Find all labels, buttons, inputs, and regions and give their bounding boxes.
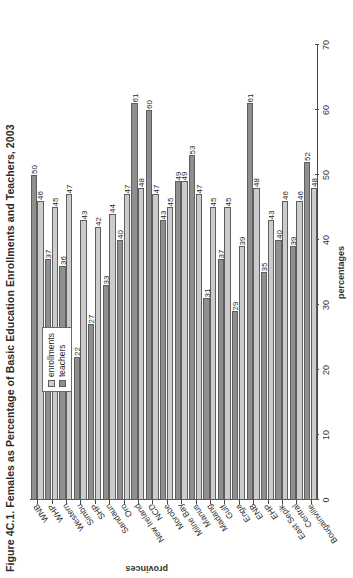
bar-value-label: 47 xyxy=(151,185,160,194)
x-axis-tick-label: 20 xyxy=(321,365,331,375)
bar-group: New Ireland4861 xyxy=(131,45,145,500)
bar-value-label: 35 xyxy=(260,263,269,272)
legend-label: teachers xyxy=(57,344,68,377)
bar-value-label: 45 xyxy=(223,198,232,207)
bar-value-label: 61 xyxy=(130,94,139,103)
bar-enrollments: 39 xyxy=(239,247,245,501)
figure-canvas: Figure 4C.1. Females as Percentage of Ba… xyxy=(0,0,353,578)
bar-enrollments: 48 xyxy=(253,188,259,500)
bar-teachers: 22 xyxy=(74,357,80,500)
bar-value-label: 36 xyxy=(58,256,67,265)
bar-value-label: 47 xyxy=(122,185,131,194)
bar-enrollments: 47 xyxy=(124,195,130,501)
bar-teachers: 31 xyxy=(203,299,209,501)
bar-group: Enga3929 xyxy=(232,45,246,500)
bar-enrollments: 43 xyxy=(80,221,86,501)
bar-value-label: 49 xyxy=(173,172,182,181)
bar-teachers: 27 xyxy=(88,325,94,501)
bar-group: Madang4531 xyxy=(203,45,217,500)
bar-value-label: 33 xyxy=(101,276,110,285)
bar-value-label: 39 xyxy=(288,237,297,246)
y-axis-tick-label-wrap: WNB xyxy=(30,505,40,575)
bar-enrollments: 49 xyxy=(181,182,187,501)
bar-value-label: 43 xyxy=(159,211,168,220)
bar-value-label: 40 xyxy=(274,230,283,239)
bar-value-label: 37 xyxy=(44,250,53,259)
x-axis-tick-label: 60 xyxy=(321,105,331,115)
bar-value-label: 45 xyxy=(50,198,59,207)
bar-value-label: 40 xyxy=(116,230,125,239)
bar-value-label: 48 xyxy=(252,178,261,187)
legend-swatch-icon xyxy=(48,380,55,387)
bar-teachers: 35 xyxy=(261,273,267,501)
bar-value-label: 50 xyxy=(29,165,38,174)
x-axis-tick-label: 10 xyxy=(321,430,331,440)
bar-teachers: 33 xyxy=(103,286,109,501)
bar-teachers: 40 xyxy=(275,240,281,500)
bar-group: Manus4753 xyxy=(189,45,203,500)
bar-value-label: 61 xyxy=(245,94,254,103)
legend-item-enrollments: enrollments xyxy=(46,333,57,387)
bar-teachers: 40 xyxy=(117,240,123,500)
bar-value-label: 37 xyxy=(216,250,225,259)
bar-value-label: 43 xyxy=(266,211,275,220)
bar-teachers: 39 xyxy=(290,247,296,501)
bar-value-label: 53 xyxy=(188,146,197,155)
bar-enrollments: 48 xyxy=(138,188,144,500)
bar-group: Gulf4537 xyxy=(217,45,231,500)
bar-group: Morobe4543 xyxy=(160,45,174,500)
bar-value-label: 39 xyxy=(237,237,246,246)
bar-teachers: 49 xyxy=(175,182,181,501)
bar-enrollments: 46 xyxy=(296,201,302,500)
bar-group: Simbu4322 xyxy=(73,45,87,500)
bar-teachers: 60 xyxy=(146,110,152,500)
bar-teachers: 50 xyxy=(31,175,37,500)
bar-value-label: 47 xyxy=(65,185,74,194)
bar-value-label: 48 xyxy=(137,178,146,187)
bar-group: EHP4335 xyxy=(261,45,275,500)
bar-group: Central4639 xyxy=(289,45,303,500)
x-axis-tick-label: 70 xyxy=(321,40,331,50)
x-axis-tick-label: 30 xyxy=(321,300,331,310)
bar-value-label: 27 xyxy=(87,315,96,324)
bar-group: East Sepik4640 xyxy=(275,45,289,500)
bar-value-label: 45 xyxy=(165,198,174,207)
legend-item-teachers: teachers xyxy=(57,333,68,387)
bar-enrollments: 45 xyxy=(167,208,173,501)
bar-value-label: 44 xyxy=(108,204,117,213)
bar-value-label: 29 xyxy=(231,302,240,311)
bar-chart-plot-area: 010203040506070Bougainville4852Central46… xyxy=(30,45,318,500)
rotated-figure-wrapper: Figure 4C.1. Females as Percentage of Ba… xyxy=(0,0,353,578)
bar-enrollments: 45 xyxy=(210,208,216,501)
bar-value-label: 60 xyxy=(144,100,153,109)
bar-enrollments: 47 xyxy=(196,195,202,501)
bar-value-label: 52 xyxy=(303,152,312,161)
bar-teachers: 61 xyxy=(131,104,137,501)
bar-enrollments: 47 xyxy=(152,195,158,501)
bar-value-label: 48 xyxy=(309,178,318,187)
x-axis-tick-label: 40 xyxy=(321,235,331,245)
bar-value-label: 47 xyxy=(194,185,203,194)
bar-value-label: 46 xyxy=(295,191,304,200)
bar-group: WNB4650 xyxy=(30,45,44,500)
bar-value-label: 45 xyxy=(209,198,218,207)
bar-enrollments: 42 xyxy=(95,227,101,500)
bar-value-label: 42 xyxy=(93,217,102,226)
bar-teachers: 37 xyxy=(218,260,224,501)
bar-teachers: 43 xyxy=(160,221,166,501)
bar-group: Milne Bay4949 xyxy=(174,45,188,500)
bar-group: Western4736 xyxy=(59,45,73,500)
x-axis-tick-label: 0 xyxy=(321,497,331,502)
bar-teachers: 61 xyxy=(247,104,253,501)
bar-value-label: 46 xyxy=(281,191,290,200)
bar-value-label: 46 xyxy=(36,191,45,200)
bar-value-label: 22 xyxy=(72,347,81,356)
bar-enrollments: 46 xyxy=(282,201,288,500)
bar-group: SHP4227 xyxy=(88,45,102,500)
y-axis-label: provinces xyxy=(125,564,168,574)
bar-teachers: 53 xyxy=(189,156,195,501)
bar-group: Oro4740 xyxy=(117,45,131,500)
bar-value-label: 43 xyxy=(79,211,88,220)
bar-group: NCD4760 xyxy=(145,45,159,500)
legend-swatch-icon xyxy=(59,380,66,387)
